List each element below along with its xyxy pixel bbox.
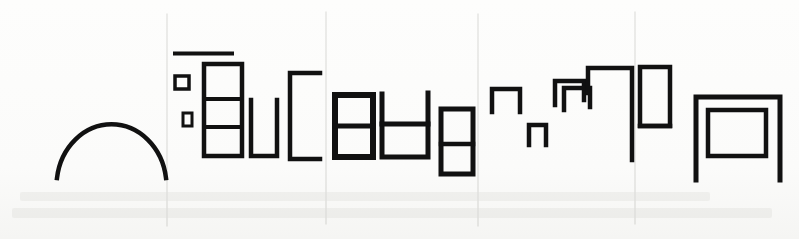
drawing-canvas: [0, 0, 799, 239]
line-drawing-artwork: [0, 0, 799, 239]
smudge-row-lower: [12, 208, 772, 218]
paper-background: [0, 0, 799, 239]
smudge-row-upper: [20, 192, 710, 201]
